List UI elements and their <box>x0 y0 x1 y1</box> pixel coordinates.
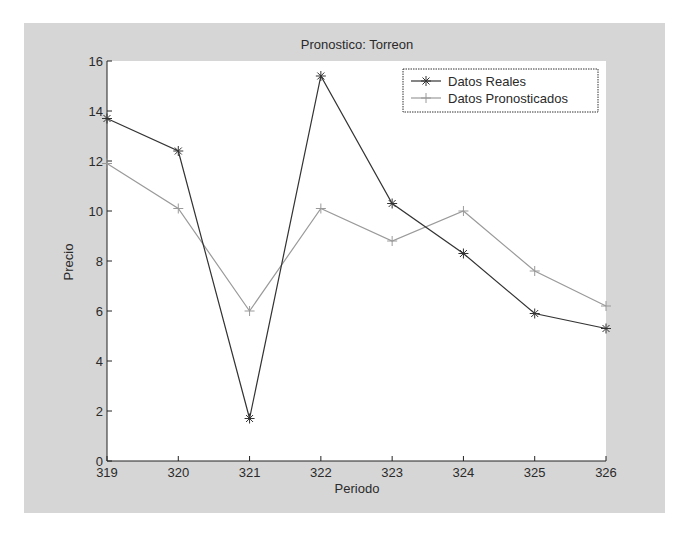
plot-area <box>107 61 606 461</box>
y-tick-label: 12 <box>89 154 103 169</box>
x-tick-label: 321 <box>239 465 261 480</box>
line-chart: Pronostico: Torreon 31932032132232332432… <box>0 0 684 534</box>
y-tick-label: 4 <box>96 354 103 369</box>
chart-title: Pronostico: Torreon <box>301 37 414 52</box>
y-tick-label: 16 <box>89 54 103 69</box>
y-tick-label: 0 <box>96 454 103 469</box>
y-tick-label: 8 <box>96 254 103 269</box>
legend-label: Datos Reales <box>448 74 527 89</box>
legend-label: Datos Pronosticados <box>448 91 568 106</box>
y-axis-label: Precio <box>61 244 76 281</box>
y-tick-label: 6 <box>96 304 103 319</box>
legend: Datos RealesDatos Pronosticados <box>403 69 598 112</box>
x-axis-label: Periodo <box>335 481 380 496</box>
y-tick-label: 14 <box>89 104 103 119</box>
x-tick-label: 324 <box>453 465 475 480</box>
x-tick-label: 326 <box>595 465 617 480</box>
x-tick-label: 325 <box>524 465 546 480</box>
x-tick-label: 323 <box>381 465 403 480</box>
y-tick-label: 10 <box>89 204 103 219</box>
y-tick-label: 2 <box>96 404 103 419</box>
x-tick-label: 320 <box>167 465 189 480</box>
x-tick-label: 322 <box>310 465 332 480</box>
